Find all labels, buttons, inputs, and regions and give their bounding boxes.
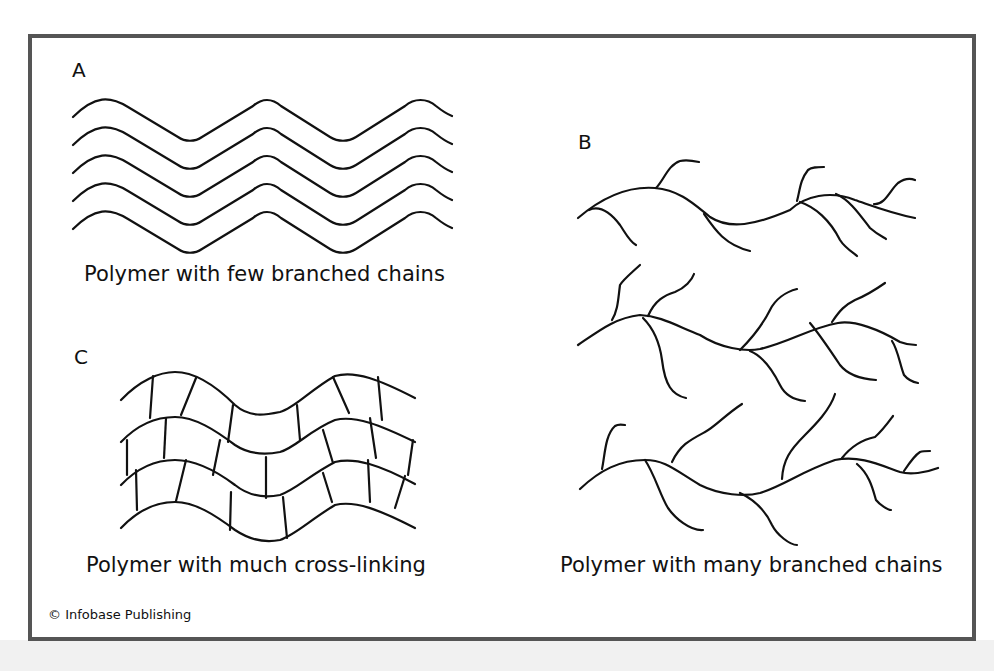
panel-b-chain-3 bbox=[580, 394, 938, 545]
copyright-credit: © Infobase Publishing bbox=[48, 607, 191, 622]
panel-b-chain-2 bbox=[578, 265, 918, 401]
panel-b-caption: Polymer with many branched chains bbox=[560, 553, 942, 577]
panel-b-chain-1 bbox=[578, 160, 915, 256]
